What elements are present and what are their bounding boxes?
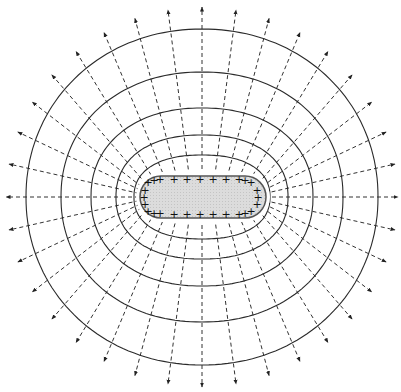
field-line bbox=[76, 213, 155, 343]
field-line bbox=[227, 18, 269, 177]
field-line bbox=[52, 75, 146, 184]
field-line bbox=[18, 204, 140, 262]
plus-charge-icon: + bbox=[182, 173, 191, 186]
field-line bbox=[262, 102, 371, 187]
field-line bbox=[264, 132, 386, 190]
field-line bbox=[239, 32, 300, 179]
plus-charge-icon: + bbox=[221, 173, 230, 186]
field-line bbox=[104, 32, 165, 179]
field-diagram: ++++++++++++++++++++++++++++ bbox=[0, 0, 401, 392]
field-line bbox=[135, 18, 177, 177]
plus-charge-icon: + bbox=[155, 207, 164, 220]
plus-charge-icon: + bbox=[208, 208, 217, 221]
field-line bbox=[249, 51, 328, 181]
plus-charge-icon: + bbox=[252, 198, 261, 211]
field-line bbox=[168, 10, 189, 176]
plus-charge-icon: + bbox=[155, 173, 164, 186]
field-line bbox=[76, 51, 155, 181]
field-line bbox=[258, 210, 352, 319]
plus-charge-icon: + bbox=[221, 208, 230, 221]
field-line bbox=[18, 132, 140, 190]
plus-charge-icon: + bbox=[169, 208, 178, 221]
plus-charge-icon: + bbox=[182, 208, 191, 221]
field-line bbox=[262, 207, 371, 292]
field-line bbox=[227, 217, 269, 376]
field-line bbox=[168, 218, 189, 384]
plus-charge-icon: + bbox=[195, 173, 204, 186]
plus-charge-icon: + bbox=[208, 173, 217, 186]
field-line bbox=[32, 207, 141, 292]
field-line bbox=[52, 210, 146, 319]
field-line bbox=[264, 204, 386, 262]
field-line bbox=[104, 215, 165, 362]
field-line bbox=[32, 102, 141, 187]
plus-charge-icon: + bbox=[169, 173, 178, 186]
field-line bbox=[135, 217, 177, 376]
field-line bbox=[215, 10, 236, 176]
field-line bbox=[215, 218, 236, 384]
field-line bbox=[249, 213, 328, 343]
plus-charge-icon: + bbox=[195, 208, 204, 221]
field-line bbox=[239, 215, 300, 362]
plus-charge-icon: + bbox=[140, 198, 149, 211]
field-line bbox=[258, 75, 352, 184]
